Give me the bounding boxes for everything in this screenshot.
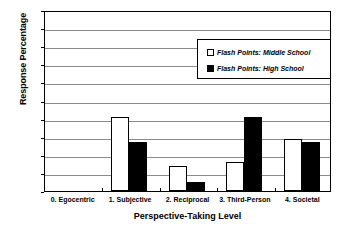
bar: [244, 117, 262, 191]
x-axis-tick-label: 3. Third-Person: [216, 196, 273, 203]
legend-swatch-icon: [207, 49, 214, 56]
legend-item: Flash Points: High School: [207, 61, 330, 75]
x-axis-tick-mark: [102, 188, 103, 192]
bar: [187, 182, 205, 191]
bar-group: [102, 12, 159, 191]
x-axis-tick-label: 1. Subjective: [101, 196, 158, 203]
bar: [226, 162, 244, 191]
y-axis-title: Response Percentage: [18, 0, 28, 134]
x-axis-tick-mark: [217, 188, 218, 192]
bar: [302, 142, 320, 191]
legend-item: Flash Points: Middle School: [207, 45, 330, 59]
x-axis-tick-label: 2. Reciprocal: [159, 196, 216, 203]
x-axis-tick-label: 4. Societal: [274, 196, 331, 203]
bar: [129, 142, 147, 191]
x-axis-title: Perspective-Taking Level: [44, 211, 331, 221]
bar: [284, 139, 302, 191]
bar: [111, 117, 129, 191]
legend-swatch-icon: [207, 65, 214, 72]
x-axis-tick-mark: [160, 188, 161, 192]
bar: [169, 166, 187, 191]
bar-chart-figure: Response Percentage 10090807060504030201…: [0, 0, 345, 233]
x-axis-tick-label: 0. Egocentric: [44, 196, 101, 203]
legend-label: Flash Points: Middle School: [217, 49, 310, 56]
chart-legend: Flash Points: Middle SchoolFlash Points:…: [197, 39, 331, 79]
y-axis-tick-mark: [41, 192, 44, 193]
bar-group: [45, 12, 102, 191]
legend-label: Flash Points: High School: [217, 65, 304, 72]
x-axis-tick-mark: [275, 188, 276, 192]
